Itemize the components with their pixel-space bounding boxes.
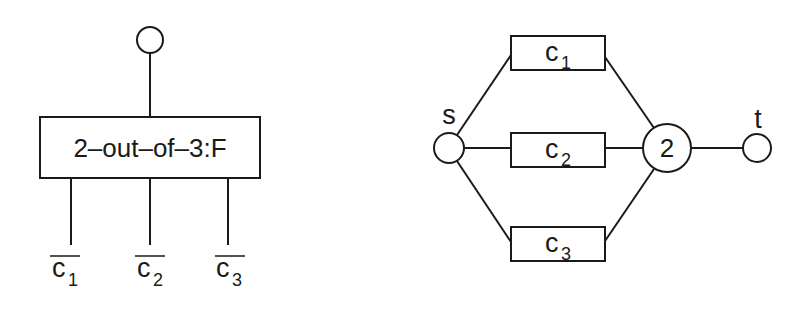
label-sub: 3	[232, 270, 242, 290]
kofn-node-label: 2	[660, 133, 674, 163]
edge-s-c3	[457, 161, 511, 242]
component-c2: c 2	[511, 133, 605, 170]
gate-label: 2–out–of–3:F	[73, 133, 226, 163]
component-c3: c 3	[511, 227, 605, 264]
component-sub: 2	[561, 150, 571, 170]
component-sub: 3	[561, 244, 571, 264]
component-base: c	[545, 134, 559, 164]
component-base: c	[545, 37, 559, 67]
label-sub: 1	[68, 270, 78, 290]
component-sub: 1	[561, 53, 571, 73]
label-base: c	[52, 253, 66, 283]
sink-label: t	[754, 104, 762, 134]
label-base: c	[216, 253, 230, 283]
edge-s-c1	[457, 55, 511, 135]
input-label-2: c 2	[135, 253, 165, 290]
component-c1: c 1	[511, 36, 605, 73]
edge-c3-node	[605, 169, 654, 241]
top-event-circle	[137, 27, 163, 53]
sink-node-circle	[743, 134, 771, 162]
component-base: c	[545, 228, 559, 258]
label-base: c	[137, 253, 151, 283]
source-label: s	[442, 100, 456, 130]
input-label-3: c 3	[215, 253, 245, 290]
label-sub: 2	[153, 270, 163, 290]
fault-tree-gate-diagram: 2–out–of–3:F c 1 c 2 c 3	[40, 27, 260, 290]
input-label-1: c 1	[50, 253, 80, 290]
diagram-canvas: 2–out–of–3:F c 1 c 2 c 3 s	[0, 0, 804, 309]
reliability-network-diagram: s c 1 c 2 c 3 2 t	[434, 36, 771, 264]
edge-c1-node	[605, 57, 654, 128]
source-node-circle	[434, 133, 464, 163]
